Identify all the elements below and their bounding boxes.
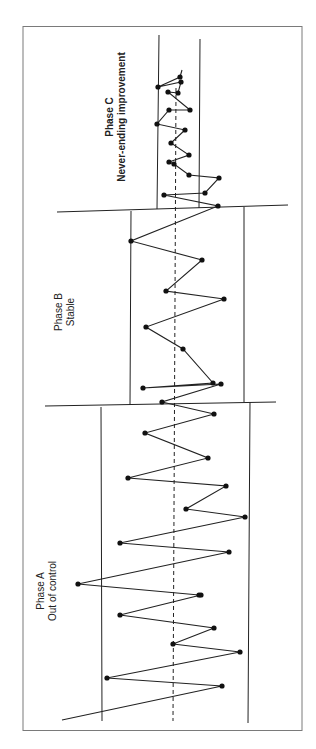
phase-c-subtitle: Never-ending improvement: [116, 52, 127, 182]
data-point: [237, 649, 242, 654]
data-point: [175, 90, 180, 95]
data-point: [143, 324, 148, 329]
data-point: [215, 203, 220, 208]
data-point: [178, 79, 183, 84]
data-point: [161, 192, 166, 197]
data-point: [221, 296, 226, 301]
phase-a-upper-limit: [248, 402, 250, 723]
data-point: [168, 140, 173, 145]
phase-c-title: Phase C: [104, 97, 115, 136]
data-point: [163, 288, 168, 293]
data-point: [211, 411, 216, 416]
data-point: [205, 455, 210, 460]
data-point: [216, 175, 221, 180]
data-point: [223, 483, 228, 488]
process-line: [62, 70, 245, 720]
data-point: [166, 159, 171, 164]
phase-b-subtitle: Stable: [65, 297, 76, 326]
phase-b-title: Phase B: [53, 293, 64, 331]
data-point: [165, 89, 170, 94]
data-point: [125, 475, 130, 480]
data-point: [226, 549, 231, 554]
phase-a-title: Phase A: [35, 572, 46, 610]
data-point: [171, 161, 176, 166]
phase-a-lower-limit: [101, 407, 102, 721]
phase-c-upper-limit: [199, 39, 200, 208]
data-point: [117, 612, 122, 617]
data-point: [154, 121, 159, 126]
data-point: [182, 127, 187, 132]
data-point: [170, 641, 175, 646]
phase-a-subtitle: Out of control: [47, 561, 58, 621]
data-point: [196, 592, 201, 597]
data-point: [140, 385, 145, 390]
data-point: [187, 107, 192, 112]
data-point: [117, 540, 122, 545]
data-point: [155, 84, 160, 89]
data-point: [159, 399, 164, 404]
chart-frame: [23, 27, 302, 731]
data-point: [210, 380, 215, 385]
phase-divider-bc: [57, 205, 288, 212]
data-point: [166, 107, 171, 112]
data-point: [186, 152, 191, 157]
data-point: [199, 257, 204, 262]
data-point: [75, 581, 80, 586]
data-point: [218, 381, 223, 386]
control-chart: Phase A Out of control Phase B Stable Ph…: [0, 0, 316, 749]
data-point: [202, 190, 207, 195]
data-point: [183, 506, 188, 511]
data-point: [142, 430, 147, 435]
data-point: [177, 74, 182, 79]
data-point: [186, 172, 191, 177]
data-point: [211, 625, 216, 630]
data-point: [219, 683, 224, 688]
data-point: [180, 346, 185, 351]
data-point: [104, 675, 109, 680]
data-point: [242, 514, 247, 519]
data-point: [128, 238, 133, 243]
